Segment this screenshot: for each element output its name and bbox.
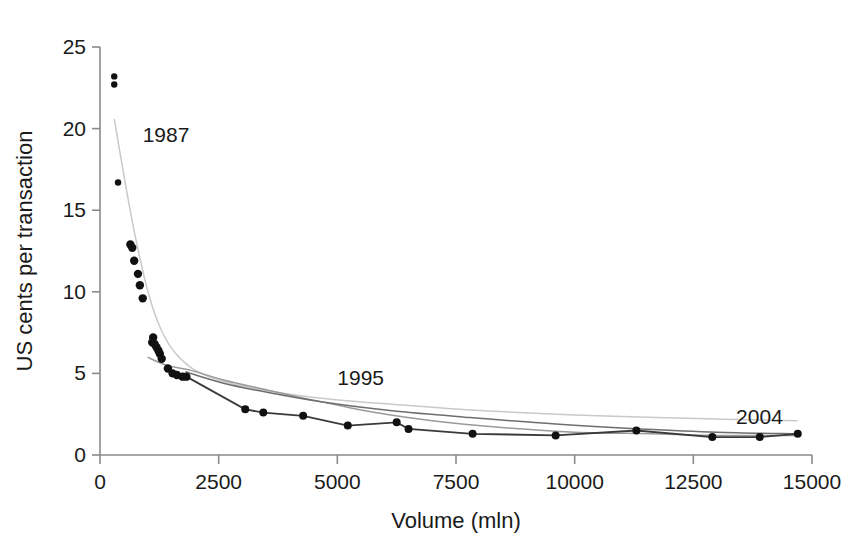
data-point [469,430,477,438]
data-point [241,405,249,413]
data-point [128,244,136,252]
data-point [794,430,802,438]
data-point [632,427,640,435]
chart-figure: 05101520250250050007500100001250015000 1… [0,0,864,545]
data-point [115,179,121,185]
trend-curve-1987 [114,119,798,421]
series-annotations-group: 198719952004 [143,123,783,428]
trend-curves-group [114,119,798,436]
data-point [136,281,144,289]
y-tick-label: 25 [63,35,86,58]
data-point [259,409,267,417]
x-tick-label: 12500 [664,470,722,493]
connector-path-observed-connector [186,377,797,437]
data-point [393,418,401,426]
y-tick-label: 0 [74,443,86,466]
x-tick-label: 2500 [195,470,242,493]
series-label-2004: 2004 [736,405,783,428]
data-point [158,355,166,363]
trend-curve-1995 [147,357,797,435]
x-tick-label: 10000 [545,470,603,493]
observed-connector-line [186,377,797,437]
tick-labels-group: 05101520250250050007500100001250015000 [63,35,842,493]
trend-curve-2004 [185,372,797,434]
data-point [552,431,560,439]
x-tick-label: 0 [94,470,106,493]
y-tick-label: 20 [63,117,86,140]
data-point [182,372,190,380]
data-point [111,81,117,87]
y-tick-label: 15 [63,198,86,221]
data-point [130,257,138,265]
data-point [139,294,147,302]
data-point [756,433,764,441]
x-tick-label: 7500 [433,470,480,493]
scatter-plot: 05101520250250050007500100001250015000 1… [0,0,864,545]
x-tick-label: 5000 [314,470,361,493]
axes-group [92,47,812,464]
data-point [344,422,352,430]
data-point [299,412,307,420]
data-points-group [111,73,802,441]
series-label-1995: 1995 [337,366,384,389]
y-tick-label: 5 [74,361,86,384]
y-tick-label: 10 [63,280,86,303]
y-axis-title: US cents per transaction [12,131,37,372]
x-tick-label: 15000 [783,470,841,493]
data-point [134,270,142,278]
data-point [405,425,413,433]
data-point [111,73,117,79]
series-label-1987: 1987 [143,123,190,146]
data-point [708,433,716,441]
x-axis-title: Volume (mln) [391,508,521,533]
